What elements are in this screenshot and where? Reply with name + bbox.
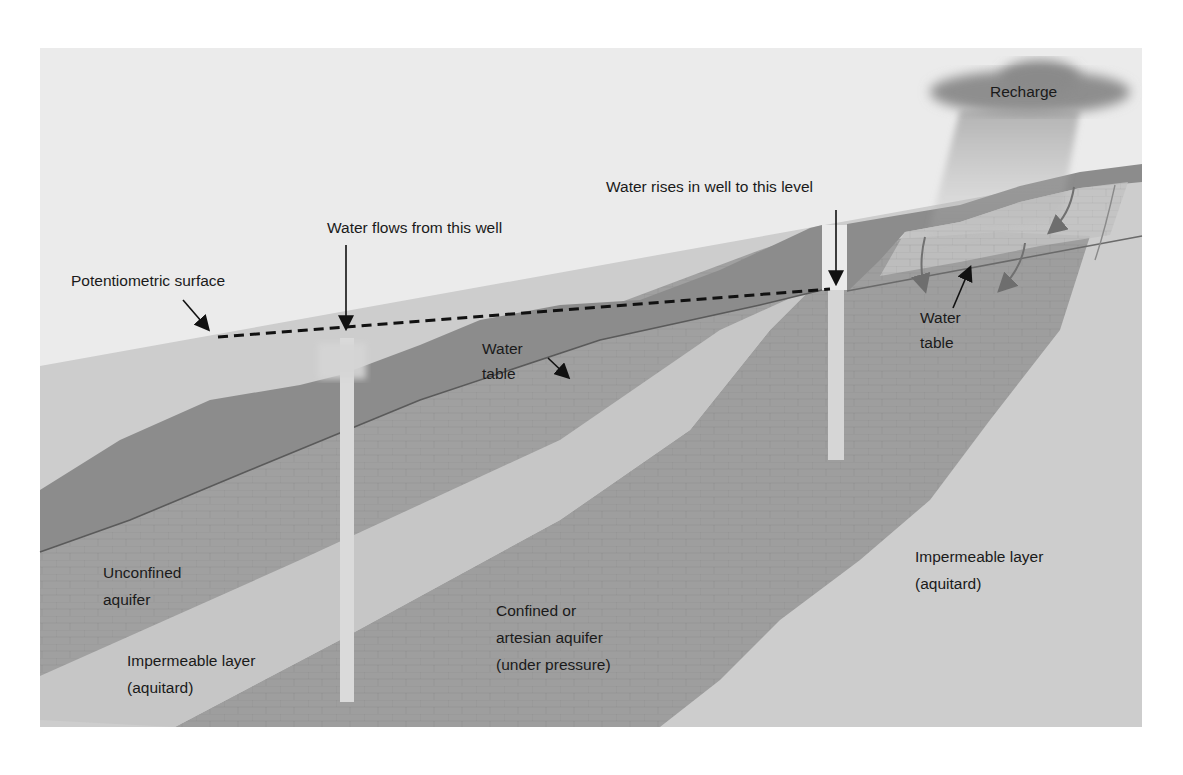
- label-aquitard-left: Impermeable layer (aquitard): [127, 647, 255, 701]
- label-unconfined-aquifer: Unconfined aquifer: [103, 559, 181, 613]
- flowing-well-casing: [340, 338, 354, 702]
- label-potentiometric-surface: Potentiometric surface: [71, 267, 225, 294]
- label-confined-aquifer: Confined or artesian aquifer (under pres…: [496, 597, 611, 678]
- label-water-table-right: Water table: [920, 305, 961, 355]
- label-recharge: Recharge: [990, 78, 1057, 105]
- label-water-flows: Water flows from this well: [327, 214, 502, 241]
- artesian-well-casing: [828, 290, 844, 460]
- label-water-table-left: Water table: [482, 336, 523, 386]
- label-water-rises: Water rises in well to this level: [606, 173, 813, 200]
- label-aquitard-right: Impermeable layer (aquitard): [915, 543, 1043, 597]
- water-spray: [318, 343, 366, 379]
